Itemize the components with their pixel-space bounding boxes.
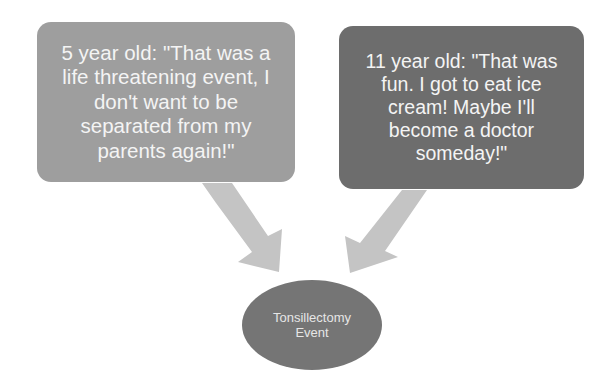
tonsillectomy-event-label: Tonsillectomy Event [262, 310, 362, 340]
eleven-year-old-quote-text: 11 year old: "That was fun. I got to eat… [353, 50, 570, 165]
eleven-year-old-quote-box: 11 year old: "That was fun. I got to eat… [339, 26, 584, 189]
five-year-old-quote-box: 5 year old: "That was a life threatening… [37, 22, 295, 182]
tonsillectomy-event-node: Tonsillectomy Event [242, 280, 382, 370]
right-arrow [345, 190, 427, 273]
five-year-old-quote-text: 5 year old: "That was a life threatening… [47, 41, 285, 164]
left-arrow [202, 183, 282, 272]
